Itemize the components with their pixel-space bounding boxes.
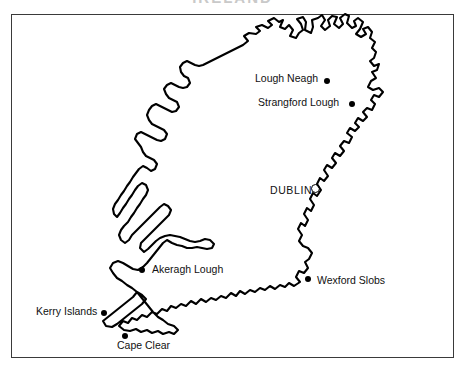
map-figure: IRELAND Lough Neagh Strangford Lough DUB… bbox=[0, 0, 465, 375]
marker-dublin bbox=[311, 184, 320, 193]
label-kerry-islands: Kerry Islands bbox=[36, 306, 97, 317]
figure-title: IRELAND bbox=[0, 0, 465, 6]
marker-strangford-lough bbox=[349, 101, 355, 107]
label-lough-neagh: Lough Neagh bbox=[255, 73, 318, 84]
marker-lough-neagh bbox=[324, 78, 330, 84]
label-strangford-lough: Strangford Lough bbox=[258, 97, 339, 108]
marker-kerry-islands bbox=[101, 310, 107, 316]
label-wexford-slobs: Wexford Slobs bbox=[317, 275, 385, 286]
label-dublin: DUBLIN bbox=[270, 185, 312, 196]
marker-akeragh-lough bbox=[139, 267, 145, 273]
label-akeragh-lough: Akeragh Lough bbox=[152, 264, 223, 275]
marker-cape-clear bbox=[122, 333, 128, 339]
marker-wexford-slobs bbox=[305, 276, 311, 282]
label-cape-clear: Cape Clear bbox=[117, 340, 170, 351]
